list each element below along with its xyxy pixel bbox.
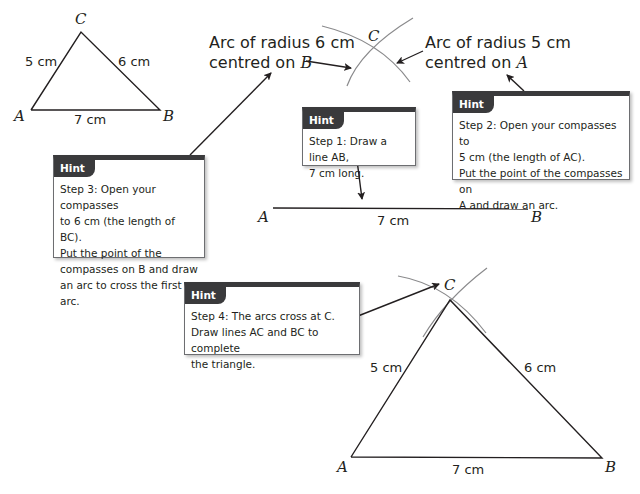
large-side-ac: 5 cm bbox=[370, 360, 402, 375]
small-side-ab: 7 cm bbox=[74, 112, 106, 127]
large-triangle bbox=[351, 300, 602, 458]
arrow-arc-a bbox=[397, 51, 423, 63]
large-side-bc: 6 cm bbox=[524, 360, 556, 375]
hint-tab: Hint bbox=[185, 287, 226, 304]
arrow-step4 bbox=[358, 284, 439, 316]
arrow-step2 bbox=[507, 75, 524, 91]
small-vertex-b: B bbox=[163, 107, 174, 125]
hint-tab: Hint bbox=[54, 160, 95, 177]
hint-step2: Hint Step 2: Open your compasses to 5 cm… bbox=[452, 91, 630, 180]
line-vertex-a: A bbox=[258, 208, 269, 226]
intersection-c-top: C bbox=[368, 27, 379, 45]
arc-a-label: Arc of radius 5 cm centred on A bbox=[425, 33, 571, 73]
hint-step1: Hint Step 1: Draw a line AB, 7 cm long. bbox=[302, 107, 416, 166]
hint-tab: Hint bbox=[453, 96, 494, 113]
small-vertex-a: A bbox=[14, 107, 25, 125]
hint-step3: Hint Step 3: Open your compasses to 6 cm… bbox=[53, 155, 205, 258]
large-side-ab: 7 cm bbox=[452, 462, 484, 477]
large-vertex-b: B bbox=[605, 458, 616, 476]
line-ab-length: 7 cm bbox=[377, 213, 409, 228]
arrow-step3 bbox=[190, 73, 271, 155]
small-side-bc: 6 cm bbox=[118, 54, 150, 69]
small-vertex-c: C bbox=[75, 10, 86, 28]
small-side-ac: 5 cm bbox=[25, 54, 57, 69]
hint-step4: Hint Step 4: The arcs cross at C. Draw l… bbox=[184, 282, 360, 355]
small-triangle bbox=[31, 32, 160, 110]
large-vertex-a: A bbox=[337, 458, 348, 476]
arc-intersection-bottom bbox=[398, 268, 487, 337]
arc-b-label: Arc of radius 6 cm centred on B bbox=[209, 33, 355, 73]
large-vertex-c: C bbox=[444, 276, 455, 294]
hint-tab: Hint bbox=[303, 112, 344, 129]
